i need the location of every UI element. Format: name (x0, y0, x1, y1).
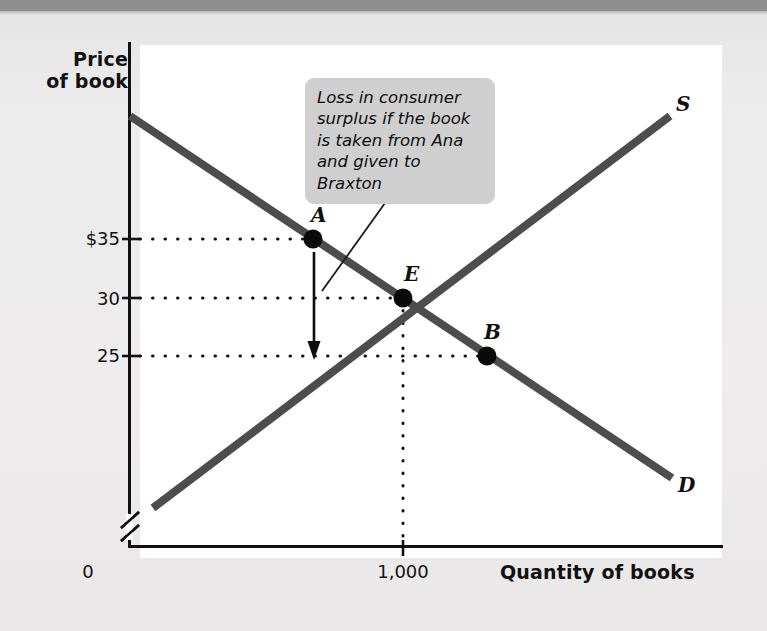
figure-container: Price of book Quantity of books $35 30 2… (0, 0, 767, 631)
demand-curve-label: D (678, 473, 695, 497)
y-tick-label-25: 25 (42, 345, 120, 366)
x-tick-label-origin: 0 (68, 561, 108, 582)
y-axis-title: Price of book (28, 48, 128, 93)
callout-text: Loss in consumer surplus if the book is … (317, 87, 484, 194)
point-label-b: B (484, 320, 501, 344)
x-axis-title: Quantity of books (500, 561, 730, 583)
data-point-b[interactable] (478, 347, 497, 366)
y-axis-break-icon (121, 512, 139, 541)
x-tick-label-1000: 1,000 (355, 561, 451, 582)
y-tick-label-35: $35 (42, 228, 120, 249)
data-point-e[interactable] (394, 289, 413, 308)
y-tick-label-30: 30 (42, 288, 120, 309)
point-label-a: A (311, 203, 327, 227)
callout-box: Loss in consumer surplus if the book is … (305, 78, 495, 204)
data-point-a[interactable] (304, 230, 323, 249)
point-label-e: E (404, 262, 419, 286)
supply-curve-label: S (676, 92, 690, 116)
consumer-surplus-loss-arrow (308, 252, 321, 360)
